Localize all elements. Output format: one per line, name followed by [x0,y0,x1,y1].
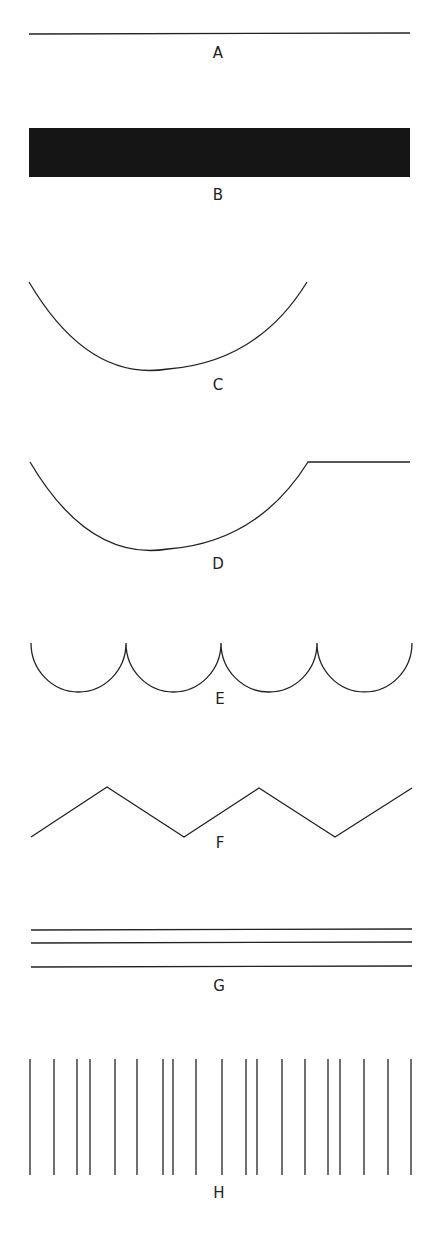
panel-g: G [31,929,412,995]
bar-b [29,128,410,177]
line-a [29,33,410,34]
zigzag-f [31,787,412,837]
label-e: E [215,690,224,708]
arc-line-d [30,462,410,550]
panel-d: D [30,462,410,573]
label-d: D [212,555,224,573]
panel-f: F [31,787,412,852]
line-g-3 [31,966,412,967]
arc-c [29,282,307,370]
panel-b: B [29,128,410,204]
line-g-1 [31,929,412,930]
panel-c: C [29,282,307,394]
vertical-lines-h [30,1059,411,1175]
label-h: H [213,1184,224,1202]
label-b: B [213,186,223,204]
panel-h: H [30,1059,411,1202]
panel-a: A [29,33,410,62]
label-g: G [213,977,225,995]
panel-e: E [31,643,412,708]
diagram-canvas: A B C D E F G [0,0,426,1234]
label-f: F [216,834,225,852]
label-c: C [213,376,223,394]
label-a: A [213,44,224,62]
line-g-2 [31,942,412,943]
scallops-e [31,643,412,692]
